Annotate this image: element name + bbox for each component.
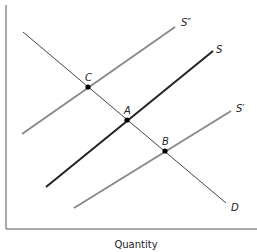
supply-demand-diagram: S″ S S′ D C A B Quantity [0,0,257,252]
label-s-prime: S′ [236,103,245,114]
supply-curve-s-double-prime [22,27,175,134]
point-b [162,148,167,153]
label-s: S [216,44,223,55]
point-a [124,117,129,122]
label-d: D [231,202,239,213]
label-a: A [123,105,131,116]
x-axis-label: Quantity [114,239,157,250]
supply-curve-s-prime [74,111,231,208]
label-s-double-prime: S″ [181,17,191,28]
label-b: B [162,136,169,147]
point-c [85,84,90,89]
supply-curve-s [46,51,213,187]
label-c: C [85,72,92,83]
